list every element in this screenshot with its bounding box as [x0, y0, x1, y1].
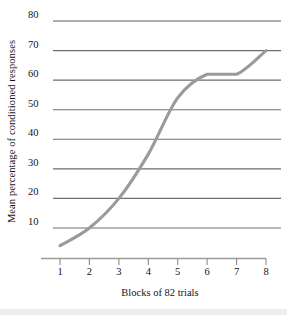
- x-tick-label-4: 4: [140, 266, 156, 278]
- gridlines: [53, 21, 281, 228]
- chart-figure: Mean percentage of conditioned responses: [0, 0, 287, 315]
- y-tick-label-20: 20: [28, 186, 54, 197]
- x-tick-label-7: 7: [229, 266, 245, 278]
- x-tick-label-2: 2: [81, 266, 97, 278]
- page-edge-band: [0, 309, 287, 315]
- y-tick-label-30: 30: [28, 157, 54, 168]
- x-tick-label-3: 3: [111, 266, 127, 278]
- x-tick-label-8: 8: [258, 266, 274, 278]
- y-tick-label-40: 40: [28, 127, 54, 138]
- x-axis-title: Blocks of 82 trials: [40, 287, 280, 298]
- y-tick-label-50: 50: [28, 98, 54, 109]
- x-axis-ticks: [60, 259, 266, 266]
- y-tick-label-60: 60: [28, 68, 54, 79]
- x-tick-label-5: 5: [170, 266, 186, 278]
- y-tick-label-10: 10: [28, 216, 54, 227]
- y-tick-label-70: 70: [28, 39, 54, 50]
- x-tick-label-1: 1: [52, 266, 68, 278]
- y-tick-label-80: 80: [28, 9, 54, 20]
- x-tick-label-6: 6: [199, 266, 215, 278]
